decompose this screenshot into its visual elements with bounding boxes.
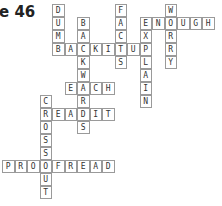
crossword-cell[interactable]: N (140, 95, 153, 108)
crossword-cell[interactable]: U (52, 17, 65, 30)
crossword-cell[interactable]: C (115, 30, 128, 43)
crossword-cell[interactable]: K (90, 43, 103, 56)
crossword-cell[interactable]: S (40, 134, 53, 147)
crossword-cell[interactable]: U (177, 17, 190, 30)
crossword-cell[interactable]: D (102, 160, 115, 173)
crossword-cell[interactable]: F (52, 160, 65, 173)
crossword-cell[interactable]: S (77, 121, 90, 134)
crossword-cell[interactable]: W (77, 69, 90, 82)
crossword-cell[interactable]: B (77, 17, 90, 30)
crossword-cell[interactable]: D (52, 4, 65, 17)
crossword-cell[interactable]: A (90, 160, 103, 173)
crossword-cell[interactable]: R (15, 160, 28, 173)
crossword-cell[interactable]: S (40, 147, 53, 160)
crossword-cell[interactable]: Y (165, 56, 178, 69)
crossword-cell[interactable]: A (140, 69, 153, 82)
crossword-cell[interactable]: E (52, 108, 65, 121)
crossword-cell[interactable]: T (40, 186, 53, 199)
crossword-cell[interactable]: A (65, 43, 78, 56)
crossword-cell[interactable]: H (102, 82, 115, 95)
crossword-cell[interactable]: I (102, 43, 115, 56)
crossword-cell[interactable]: O (165, 17, 178, 30)
crossword-cell[interactable]: K (77, 56, 90, 69)
crossword-cell[interactable]: H (202, 17, 215, 30)
crossword-cell[interactable]: T (102, 108, 115, 121)
crossword-cell[interactable]: E (140, 17, 153, 30)
crossword-cell[interactable]: E (65, 82, 78, 95)
crossword-cell[interactable]: T (115, 43, 128, 56)
crossword-cell[interactable]: C (40, 95, 53, 108)
crossword-cell[interactable]: F (115, 4, 128, 17)
crossword-cell[interactable]: A (115, 17, 128, 30)
crossword-cell[interactable]: I (90, 108, 103, 121)
crossword-cell[interactable]: O (27, 160, 40, 173)
crossword-cell[interactable]: U (127, 43, 140, 56)
crossword-cell[interactable]: W (165, 4, 178, 17)
crossword-cell[interactable]: X (140, 30, 153, 43)
crossword-cell[interactable]: O (40, 160, 53, 173)
crossword-cell[interactable]: U (40, 173, 53, 186)
crossword-cell[interactable]: E (77, 160, 90, 173)
crossword-cell[interactable]: O (40, 121, 53, 134)
crossword-cell[interactable]: S (115, 56, 128, 69)
crossword-cell[interactable]: R (165, 30, 178, 43)
crossword-cell[interactable]: G (190, 17, 203, 30)
crossword-cell[interactable]: P (2, 160, 15, 173)
crossword-cell[interactable]: B (52, 43, 65, 56)
crossword-grid: DUMBACKITUPBAKWARDSFACSEXLAINNOUGHWRRYEC… (0, 0, 222, 206)
crossword-cell[interactable]: C (77, 43, 90, 56)
crossword-cell[interactable]: R (65, 160, 78, 173)
crossword-cell[interactable]: P (140, 43, 153, 56)
crossword-cell[interactable]: A (77, 30, 90, 43)
crossword-cell[interactable]: N (152, 17, 165, 30)
crossword-cell[interactable]: R (165, 43, 178, 56)
crossword-cell[interactable]: M (52, 30, 65, 43)
crossword-cell[interactable]: A (77, 82, 90, 95)
crossword-cell[interactable]: L (140, 56, 153, 69)
crossword-cell[interactable]: R (40, 108, 53, 121)
crossword-cell[interactable]: I (140, 82, 153, 95)
crossword-cell[interactable]: R (77, 95, 90, 108)
crossword-cell[interactable]: D (77, 108, 90, 121)
crossword-cell[interactable]: A (65, 108, 78, 121)
crossword-cell[interactable]: C (90, 82, 103, 95)
